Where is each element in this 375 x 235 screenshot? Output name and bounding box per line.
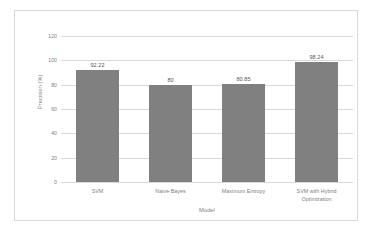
bar-value-label: 80.85 [237, 76, 251, 82]
bar[interactable] [295, 62, 338, 182]
bar-value-label: 92.22 [91, 62, 105, 68]
y-tick-40: 40 [51, 130, 57, 136]
x-tick-label: SVM [58, 188, 138, 196]
bar-value-label: 80 [167, 77, 173, 83]
bar[interactable] [76, 70, 119, 182]
bar[interactable] [149, 85, 192, 182]
y-tick-60: 60 [51, 106, 57, 112]
bar-slot-naive-bayes: 80 Naive Bayes [134, 36, 207, 182]
x-tick-label: Naive Bayes [131, 188, 211, 196]
bar[interactable] [222, 84, 265, 182]
gridline-0 [61, 182, 353, 183]
bar-slot-maximum-entropy: 80.85 Maximum Entropy [207, 36, 280, 182]
y-tick-100: 100 [48, 57, 57, 63]
y-tick-80: 80 [51, 82, 57, 88]
x-tick-label: SVM with Hybrid Optimization [277, 188, 357, 204]
plot-area: 120 100 80 60 40 20 0 92.22 SVM 80 Naive… [61, 36, 353, 182]
y-tick-20: 20 [51, 155, 57, 161]
x-axis-title: Model [61, 207, 353, 213]
chart-container: Precision (%) 120 100 80 60 40 20 0 92.2… [14, 10, 358, 221]
bar-value-label: 98.24 [310, 54, 324, 60]
bar-series: 92.22 SVM 80 Naive Bayes 80.85 Maximum E… [61, 36, 353, 182]
bar-slot-svm-hybrid-optimization: 98.24 SVM with Hybrid Optimization [280, 36, 353, 182]
y-axis-title: Precision (%) [37, 74, 43, 109]
x-tick-label: Maximum Entropy [204, 188, 284, 196]
y-tick-120: 120 [48, 33, 57, 39]
bar-slot-svm: 92.22 SVM [61, 36, 134, 182]
y-tick-0: 0 [54, 179, 57, 185]
